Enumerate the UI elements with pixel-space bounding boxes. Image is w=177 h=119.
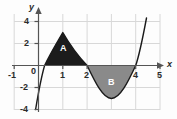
x-tick-label-neg1: -1 (8, 71, 16, 80)
y-axis (35, 7, 41, 112)
function-plot-figure: 4 2 -2 -4 -1 0 1 2 4 5 y x A B (0, 0, 177, 119)
x-tick-label-4: 4 (133, 71, 138, 80)
x-tick-label-2: 2 (84, 71, 89, 80)
region-label-a: A (60, 44, 67, 53)
x-tick-label-5: 5 (157, 71, 162, 80)
grid-vertical (14, 14, 160, 110)
x-tick-label-0: 0 (31, 67, 36, 76)
y-axis-name: y (29, 3, 34, 12)
y-tick-label-2: 2 (24, 39, 29, 48)
region-label-b: B (108, 78, 115, 87)
y-tick-label-neg2: -2 (20, 83, 28, 92)
x-tick-label-1: 1 (60, 71, 65, 80)
x-axis-name: x (167, 60, 172, 69)
y-tick-label-neg4: -4 (20, 105, 28, 114)
y-tick-label-4: 4 (24, 17, 29, 26)
